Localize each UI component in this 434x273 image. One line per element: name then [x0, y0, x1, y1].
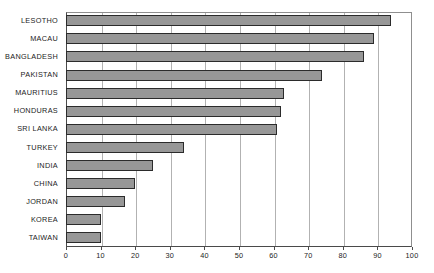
y-axis-label: MACAU	[30, 30, 58, 48]
bar[interactable]	[66, 160, 153, 171]
y-axis-label: INDIA	[37, 157, 58, 175]
y-axis-label: LESOTHO	[21, 12, 58, 30]
bar[interactable]	[66, 232, 101, 243]
bar-row	[66, 12, 412, 30]
bar[interactable]	[66, 70, 322, 81]
bar[interactable]	[66, 15, 391, 26]
x-axis-label: 0	[64, 251, 68, 260]
bar-row	[66, 175, 412, 193]
bar[interactable]	[66, 214, 101, 225]
bar-row	[66, 102, 412, 120]
x-axis-tick-labels: 0102030405060708090100	[0, 249, 434, 265]
y-axis-label: JORDAN	[26, 193, 58, 211]
bar[interactable]	[66, 196, 125, 207]
x-axis-tick	[204, 247, 205, 250]
x-axis-tick	[412, 247, 413, 250]
x-axis-tick	[377, 247, 378, 250]
bar-row	[66, 48, 412, 66]
x-axis-tick	[308, 247, 309, 250]
x-axis-label: 90	[373, 251, 382, 260]
bar-row	[66, 66, 412, 84]
y-axis-label: HONDURAS	[14, 102, 58, 120]
bars-layer	[66, 12, 412, 247]
x-axis-label: 70	[304, 251, 313, 260]
x-axis-label: 40	[200, 251, 209, 260]
bar-row	[66, 30, 412, 48]
bar[interactable]	[66, 142, 184, 153]
x-axis-tick	[170, 247, 171, 250]
x-axis-tick	[101, 247, 102, 250]
y-axis-label: SRI LANKA	[17, 120, 58, 138]
y-axis-label: CHINA	[34, 175, 58, 193]
x-axis-tick	[343, 247, 344, 250]
bar[interactable]	[66, 178, 135, 189]
x-axis-tick	[239, 247, 240, 250]
bar-row	[66, 84, 412, 102]
x-axis-label: 30	[166, 251, 175, 260]
bar-row	[66, 139, 412, 157]
y-axis-label: TAIWAN	[29, 229, 58, 247]
x-axis-tick	[135, 247, 136, 250]
y-axis-label: MAURITIUS	[15, 84, 58, 102]
bar[interactable]	[66, 88, 284, 99]
x-axis-label: 50	[235, 251, 244, 260]
bar-row	[66, 229, 412, 247]
bar-row	[66, 211, 412, 229]
bar-chart: LESOTHOMACAUBANGLADESHPAKISTANMAURITIUSH…	[0, 0, 434, 273]
x-axis-label: 100	[406, 251, 419, 260]
bar[interactable]	[66, 124, 277, 135]
bar-row	[66, 193, 412, 211]
x-axis-tick	[66, 247, 67, 250]
bar[interactable]	[66, 106, 281, 117]
bar[interactable]	[66, 33, 374, 44]
bar-row	[66, 157, 412, 175]
y-axis-label: TURKEY	[27, 139, 58, 157]
bar-row	[66, 120, 412, 138]
y-axis-label: BANGLADESH	[5, 48, 58, 66]
x-axis-label: 60	[269, 251, 278, 260]
x-axis-label: 20	[131, 251, 140, 260]
bar[interactable]	[66, 51, 364, 62]
y-axis-label: PAKISTAN	[21, 66, 58, 84]
x-axis-label: 80	[339, 251, 348, 260]
x-axis-tick	[274, 247, 275, 250]
x-axis-label: 10	[96, 251, 105, 260]
y-axis-label: KOREA	[31, 211, 58, 229]
y-axis-category-labels: LESOTHOMACAUBANGLADESHPAKISTANMAURITIUSH…	[0, 12, 62, 247]
